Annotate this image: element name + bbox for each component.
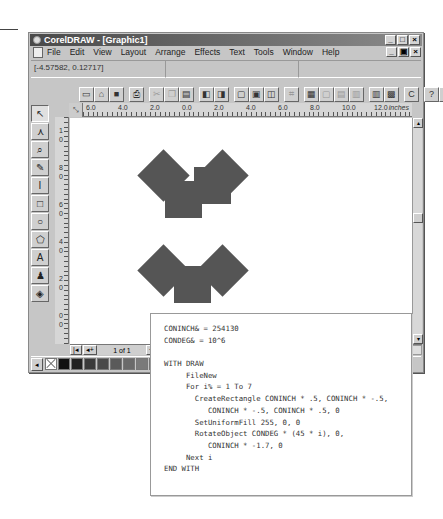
standard-toolbar: ▭⌂■⎙✂❐▤◧◨▢▣◫⌗▦▢▤▥▥▩C?●: [79, 85, 421, 103]
document-icon[interactable]: [33, 47, 43, 58]
pencil-tool-icon[interactable]: ✎: [31, 159, 49, 176]
code-line: CreateRectangle CONINCH * .5, CONINCH * …: [164, 393, 411, 405]
ruler-label: 0: [58, 136, 64, 143]
ruler-label: 6.0: [86, 104, 96, 111]
menu-text[interactable]: Text: [229, 46, 245, 59]
color-swatch[interactable]: [123, 358, 135, 370]
color-swatch[interactable]: [58, 358, 70, 370]
toolbar-group: ✂❐▤: [149, 87, 194, 102]
print-icon[interactable]: ⎙: [129, 87, 144, 102]
code-listing: CONINCH& = 254130CONDEG& = 10^6WITH DRAW…: [150, 313, 412, 496]
zoom-tool-icon[interactable]: ⌕: [31, 141, 49, 158]
toolbar-group: ▭⌂■: [79, 87, 124, 102]
menu-effects[interactable]: Effects: [194, 46, 220, 59]
corel-apps-icon[interactable]: C: [404, 87, 419, 102]
menu-edit[interactable]: Edit: [70, 46, 85, 59]
title-bar[interactable]: CorelDRAW - [Graphic1] _ □ ×: [30, 34, 422, 46]
vertical-scrollbar[interactable]: ▴ ▾: [412, 118, 422, 344]
first-page-button[interactable]: |◂: [70, 345, 82, 355]
fill-tool-icon[interactable]: ◈: [31, 285, 49, 302]
code-line: CONINCH * -1.7, 0: [164, 440, 411, 452]
toolbar-group: ▦▢▤▥: [304, 87, 364, 102]
menu-window[interactable]: Window: [283, 46, 313, 59]
ruler-label: 4.0: [118, 104, 128, 111]
code-line: CONDEG& = 10^6: [164, 335, 411, 347]
export-icon[interactable]: ◨: [214, 87, 229, 102]
ruler-ticks: [83, 112, 412, 116]
no-fill-swatch[interactable]: [45, 358, 57, 370]
scroll-thumb[interactable]: [413, 213, 423, 223]
menu-view[interactable]: View: [93, 46, 111, 59]
scroll-up-button[interactable]: ▴: [413, 118, 423, 128]
menu-file[interactable]: File: [47, 46, 61, 59]
ruler-label: 0: [58, 247, 64, 254]
rectangle-shape[interactable]: [174, 266, 211, 303]
full-screen-preview-icon[interactable]: ▢: [234, 87, 249, 102]
menu-help[interactable]: Help: [322, 46, 339, 59]
text-tool-icon[interactable]: A: [31, 249, 49, 266]
toolbar-group: C: [404, 87, 419, 102]
drawing-canvas[interactable]: [70, 118, 412, 344]
menu-arrange[interactable]: Arrange: [155, 46, 185, 59]
copy-icon[interactable]: ❐: [164, 87, 179, 102]
horizontal-ruler[interactable]: ⤡ inches 6.04.02.00.02.04.06.08.010.012.…: [69, 103, 412, 117]
palette-scroll-left-button[interactable]: ◂: [31, 358, 43, 371]
snap-grid-icon[interactable]: ⌗: [284, 87, 299, 102]
ungroup-icon[interactable]: ▢: [319, 87, 334, 102]
code-line: Next i: [164, 452, 411, 464]
context-help-icon[interactable]: ?: [424, 87, 439, 102]
code-line: CONINCH * -.5, CONINCH * .5, 0: [164, 405, 411, 417]
color-swatch[interactable]: [97, 358, 109, 370]
toolbar-group: ◧◨: [199, 87, 229, 102]
snap-icon[interactable]: ◫: [264, 87, 279, 102]
open-icon[interactable]: ⌂: [94, 87, 109, 102]
roll-up-icon[interactable]: ▥: [369, 87, 384, 102]
doc-restore-button[interactable]: ▣: [398, 47, 409, 57]
break-apart-icon[interactable]: ▥: [349, 87, 364, 102]
menu-layout[interactable]: Layout: [121, 46, 147, 59]
color-swatch[interactable]: [136, 358, 148, 370]
outline-tool-icon[interactable]: ♟: [31, 267, 49, 284]
ruler-label: 1: [58, 127, 64, 134]
polygon-tool-icon[interactable]: ⬠: [31, 231, 49, 248]
code-line: WITH DRAW: [164, 358, 411, 370]
ellipse-tool-icon[interactable]: ○: [31, 213, 49, 230]
shape-tool-icon[interactable]: ⋏: [31, 123, 49, 140]
import-icon[interactable]: ◧: [199, 87, 214, 102]
group-icon[interactable]: ▦: [304, 87, 319, 102]
new-icon[interactable]: ▭: [79, 87, 94, 102]
save-icon[interactable]: ■: [109, 87, 124, 102]
wireframe-icon[interactable]: ▣: [249, 87, 264, 102]
color-swatch[interactable]: [71, 358, 83, 370]
minimize-button[interactable]: _: [385, 35, 396, 45]
prev-page-button[interactable]: ◂+: [83, 345, 97, 355]
paste-icon[interactable]: ▤: [179, 87, 194, 102]
maximize-button[interactable]: □: [397, 35, 408, 45]
pick-tool-icon[interactable]: ↖: [31, 105, 49, 122]
ruler-label: 2: [58, 275, 64, 282]
combine-icon[interactable]: ▤: [334, 87, 349, 102]
rectangle-tool-icon[interactable]: □: [31, 195, 49, 212]
scroll-down-button[interactable]: ▾: [413, 334, 423, 344]
ruler-label: 8.0: [310, 104, 320, 111]
status-bar: [-4.57582, 0.12717]: [31, 60, 421, 77]
cut-icon[interactable]: ✂: [149, 87, 164, 102]
toolbar-group: ▢▣◫: [234, 87, 279, 102]
menu-tools[interactable]: Tools: [254, 46, 274, 59]
doc-close-button[interactable]: ×: [410, 47, 421, 57]
dimension-tool-icon[interactable]: I: [31, 177, 49, 194]
color-swatch[interactable]: [110, 358, 122, 370]
doc-minimize-button[interactable]: _: [386, 47, 397, 57]
ruler-label: 8: [58, 164, 64, 171]
code-line: [164, 346, 411, 358]
ruler-label: 0: [58, 321, 64, 328]
status-cell-2: [166, 61, 299, 78]
properties-icon[interactable]: ▩: [384, 87, 399, 102]
vertical-ruler[interactable]: 108060402000: [55, 117, 69, 344]
color-swatch[interactable]: [84, 358, 96, 370]
ruler-label: 12.0: [374, 104, 388, 111]
tutor-icon[interactable]: ●: [439, 87, 443, 102]
close-button[interactable]: ×: [409, 35, 420, 45]
ruler-corner-icon[interactable]: ⤡: [69, 103, 83, 117]
coreldraw-app-icon[interactable]: [33, 36, 41, 44]
